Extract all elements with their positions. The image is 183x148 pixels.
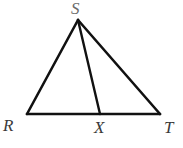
segment-SR [27, 20, 78, 114]
segment-ST [78, 20, 160, 114]
vertex-label-X: X [94, 119, 104, 136]
vertex-label-S: S [71, 0, 80, 17]
vertex-label-T: T [164, 119, 173, 136]
triangle-diagram-svg [0, 0, 183, 148]
vertex-label-R: R [3, 117, 13, 134]
geometry-figure: S R X T [0, 0, 183, 148]
